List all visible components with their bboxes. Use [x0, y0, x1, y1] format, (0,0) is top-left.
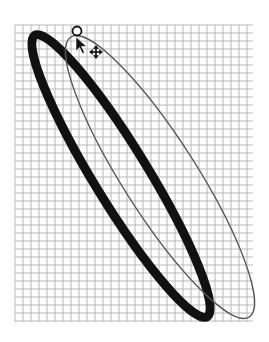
drawing-canvas[interactable]	[0, 0, 269, 342]
rotate-handle-icon[interactable]	[73, 27, 82, 36]
